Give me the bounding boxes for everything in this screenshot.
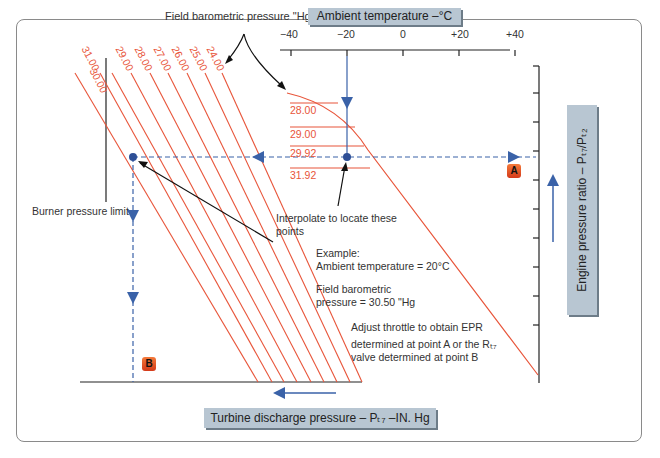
example-baro-1: Field barometric [316, 283, 391, 296]
point-a-badge: A [507, 164, 521, 178]
temp-tick: +20 [451, 28, 469, 41]
burner-limit-label: Burner pressure limit [32, 205, 129, 218]
interpolate-label-2: points [276, 225, 304, 238]
temp-tick: 0 [400, 28, 406, 41]
temp-tick: −40 [280, 28, 298, 41]
field-baro-label: Field barometric pressure "Hg [165, 10, 311, 24]
turbine-axis-header: Turbine discharge pressure – Pₜ₇ –IN. Hg [204, 408, 436, 428]
example-title: Example: [316, 247, 360, 260]
example-temp: Ambient temperature = 20°C [316, 260, 449, 273]
epr-axis-header: Engine pressure ratio – Pₜ₇/Pₜ₂ [567, 105, 597, 315]
adjust-text-2: determined at point A or the Rₜ₇ [351, 338, 497, 351]
point-b-badge: B [142, 357, 156, 371]
baro-curve-label: 28.00 [290, 104, 316, 117]
adjust-text-1: Adjust throttle to obtain EPR [351, 321, 483, 334]
interpolate-label-1: Interpolate to locate these [276, 212, 397, 225]
temp-tick: −20 [337, 28, 355, 41]
example-baro-2: pressure = 30.50 "Hg [316, 296, 415, 309]
adjust-text-3: valve determined at point B [351, 351, 478, 364]
baro-curve-label: 29.92 [290, 147, 316, 160]
baro-curve-label: 31.92 [290, 169, 316, 182]
temp-tick: +40 [506, 28, 524, 41]
baro-curve-label: 29.00 [290, 128, 316, 141]
epr-axis-label: Engine pressure ratio – Pₜ₇/Pₜ₂ [575, 128, 589, 292]
ambient-temp-header: Ambient temperature –°C [308, 8, 461, 25]
